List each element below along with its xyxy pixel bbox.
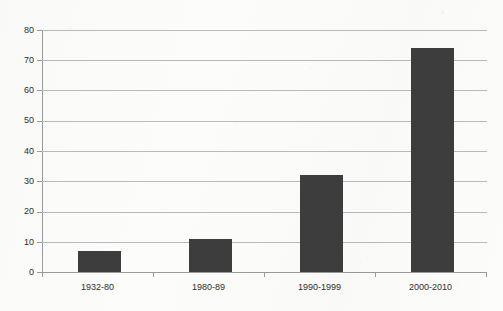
y-tick-label-70: 70 bbox=[4, 56, 34, 65]
bar-1932-80 bbox=[78, 251, 121, 272]
y-tick-label-60: 60 bbox=[4, 86, 34, 95]
gridline-80 bbox=[42, 30, 487, 31]
x-axis-label-1980-89: 1980-89 bbox=[153, 283, 264, 292]
x-tick-mark-0 bbox=[42, 272, 43, 277]
y-tick-label-50: 50 bbox=[4, 116, 34, 125]
bar-2000-2010 bbox=[411, 48, 454, 272]
bar-1980-89 bbox=[189, 239, 232, 272]
y-tick-label-10: 10 bbox=[4, 238, 34, 247]
x-axis-label-1932-80: 1932-80 bbox=[42, 283, 153, 292]
plot-area bbox=[42, 30, 487, 272]
x-tick-mark-3 bbox=[375, 272, 376, 277]
y-axis-labels: 80 70 60 50 40 30 20 10 0 bbox=[0, 0, 34, 311]
y-tick-label-40: 40 bbox=[4, 147, 34, 156]
bar-1990-1999 bbox=[300, 175, 343, 272]
y-tick-label-30: 30 bbox=[4, 177, 34, 186]
x-tick-mark-2 bbox=[264, 272, 265, 277]
x-axis-label-2000-2010: 2000-2010 bbox=[375, 283, 486, 292]
y-tick-label-0: 0 bbox=[4, 268, 34, 277]
y-tick-label-20: 20 bbox=[4, 207, 34, 216]
x-axis-label-1990-1999: 1990-1999 bbox=[264, 283, 375, 292]
x-tick-mark-1 bbox=[153, 272, 154, 277]
y-tick-label-80: 80 bbox=[4, 26, 34, 35]
x-tick-mark-4 bbox=[486, 272, 487, 277]
bar-chart-figure: 80 70 60 50 40 30 20 10 0 bbox=[0, 0, 503, 311]
